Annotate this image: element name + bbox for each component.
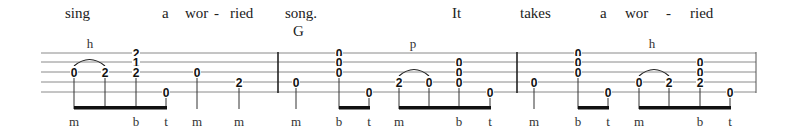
- banjo-tablature: singawor-riedsong.Ittakesawor-ried G hph…: [0, 0, 794, 138]
- beam: [339, 106, 370, 110]
- fret-number: 0: [636, 76, 643, 90]
- finger-label: m: [634, 114, 644, 129]
- lyric-syllable: -: [666, 5, 671, 21]
- hammer-on-mark: h: [649, 36, 656, 51]
- fret-number: 0: [163, 86, 170, 100]
- fret-number: 0: [336, 66, 343, 80]
- finger-label: t: [488, 114, 492, 129]
- fret-number: 2: [396, 76, 403, 90]
- pull-off-mark: p: [410, 36, 417, 51]
- finger-label: t: [367, 114, 371, 129]
- finger-label: t: [164, 114, 168, 129]
- lyric-syllable: sing: [65, 5, 91, 21]
- fret-number: 0: [71, 66, 78, 80]
- finger-label: b: [133, 114, 140, 129]
- note-beams: [74, 106, 731, 110]
- finger-label: m: [192, 114, 202, 129]
- fingering-labels: mbtmmmbtmbtmbtmbt: [69, 114, 732, 129]
- chord-symbols: G: [293, 23, 304, 39]
- fret-number: 2: [697, 76, 704, 90]
- chord-symbol: G: [293, 23, 304, 39]
- finger-label: b: [697, 114, 704, 129]
- finger-label: m: [234, 114, 244, 129]
- fret-number: 0: [605, 86, 612, 100]
- fret-number: 0: [426, 76, 433, 90]
- lyric-syllable: ried: [230, 5, 254, 21]
- lyric-syllable: song.: [285, 5, 317, 21]
- hammer-on-mark: h: [87, 36, 94, 51]
- beam: [399, 106, 491, 110]
- lyric-syllable: takes: [520, 5, 551, 21]
- fret-number: 0: [366, 86, 373, 100]
- fret-number: 0: [531, 76, 538, 90]
- fret-number: 2: [102, 66, 109, 80]
- technique-marks: hph: [87, 36, 656, 51]
- slur-arc: [399, 70, 429, 77]
- beam: [578, 106, 609, 110]
- fret-number: 0: [194, 66, 201, 80]
- finger-label: m: [291, 114, 301, 129]
- finger-label: t: [728, 114, 732, 129]
- fret-number: 0: [456, 76, 463, 90]
- fret-number: 0: [487, 86, 494, 100]
- lyric-syllable: a: [162, 5, 169, 21]
- finger-label: t: [606, 114, 610, 129]
- finger-label: b: [336, 114, 343, 129]
- lyric-syllable: a: [600, 5, 607, 21]
- beam: [639, 106, 731, 110]
- lyric-syllable: -: [214, 5, 219, 21]
- fret-number: 0: [727, 86, 734, 100]
- fret-number: 0: [293, 76, 300, 90]
- lyrics-row: singawor-riedsong.Ittakesawor-ried: [65, 5, 714, 21]
- lyric-syllable: wor: [625, 5, 648, 21]
- finger-label: b: [456, 114, 463, 129]
- slur-arc: [74, 60, 105, 67]
- finger-label: m: [529, 114, 539, 129]
- lyric-syllable: wor: [185, 5, 208, 21]
- beam: [74, 106, 167, 110]
- fret-number: 2: [666, 76, 673, 90]
- lyric-syllable: ried: [690, 5, 714, 21]
- finger-label: b: [575, 114, 582, 129]
- lyric-syllable: It: [452, 5, 462, 21]
- fret-number: 2: [133, 66, 140, 80]
- finger-label: m: [394, 114, 404, 129]
- slur-arc: [639, 70, 669, 77]
- fret-number: 2: [236, 76, 243, 90]
- finger-label: m: [69, 114, 79, 129]
- fret-number: 0: [575, 66, 582, 80]
